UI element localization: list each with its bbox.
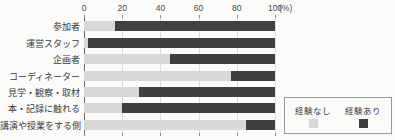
legend: 経験なし経験あり xyxy=(284,97,392,134)
x-axis-unit-label: (%) xyxy=(279,3,292,13)
bar-row xyxy=(84,103,275,113)
x-tick-label: 0 xyxy=(82,3,87,13)
bar-row xyxy=(84,38,275,48)
category-label: 運営スタッフ xyxy=(0,36,80,49)
bar-segment-経験あり xyxy=(122,103,275,113)
tick-mark xyxy=(84,15,85,18)
x-tick-label: 40 xyxy=(156,3,165,13)
tick-mark xyxy=(199,15,200,18)
tick-mark xyxy=(122,133,123,136)
bar-segment-経験なし xyxy=(84,21,115,31)
legend-label: 経験なし xyxy=(295,104,331,116)
gridline xyxy=(275,18,276,133)
tick-mark xyxy=(160,15,161,18)
bar-segment-経験あり xyxy=(139,87,275,97)
category-label: 講演や授業をする側 xyxy=(0,118,80,131)
bar-segment-経験あり xyxy=(246,120,275,130)
category-label: コーディネーター xyxy=(0,69,80,82)
tick-mark xyxy=(199,133,200,136)
stacked-bar-chart: 020406080100 (%) 経験なし経験あり 参加者運営スタッフ企画者コー… xyxy=(0,0,395,140)
bar-segment-経験なし xyxy=(84,120,246,130)
bar-segment-経験なし xyxy=(84,87,139,97)
bar-segment-経験あり xyxy=(231,71,275,81)
bar-segment-経験あり xyxy=(115,21,275,31)
category-label: 見学・観察・取材 xyxy=(0,85,80,98)
tick-mark xyxy=(122,15,123,18)
x-axis: 020406080100 xyxy=(84,3,275,15)
x-tick-label: 20 xyxy=(117,3,126,13)
legend-label: 経験あり xyxy=(345,104,381,116)
tick-mark xyxy=(237,15,238,18)
tick-mark xyxy=(275,15,276,18)
tick-mark xyxy=(84,133,85,136)
category-label: 企画者 xyxy=(0,53,80,66)
legend-item: 経験なし xyxy=(295,104,331,128)
bar-row xyxy=(84,71,275,81)
x-tick-label: 80 xyxy=(232,3,241,13)
tick-mark xyxy=(160,133,161,136)
legend-item: 経験あり xyxy=(345,104,381,128)
bar-row xyxy=(84,54,275,64)
tick-mark xyxy=(275,133,276,136)
bar-segment-経験なし xyxy=(84,54,170,64)
legend-swatch xyxy=(359,119,368,128)
category-label: 本・記録に触れる xyxy=(0,102,80,115)
bar-row xyxy=(84,87,275,97)
legend-swatch xyxy=(309,119,318,128)
bar-row xyxy=(84,21,275,31)
category-label: 参加者 xyxy=(0,20,80,33)
x-tick-label: 60 xyxy=(194,3,203,13)
bar-segment-経験なし xyxy=(84,71,231,81)
bar-segment-経験あり xyxy=(170,54,275,64)
bar-segment-経験なし xyxy=(84,103,122,113)
plot-area xyxy=(84,18,275,133)
tick-mark xyxy=(237,133,238,136)
bar-segment-経験あり xyxy=(88,38,275,48)
bar-row xyxy=(84,120,275,130)
